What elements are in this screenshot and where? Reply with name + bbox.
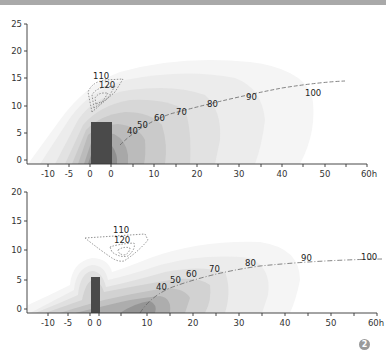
y-tick-label: 15	[11, 216, 22, 226]
trajectory-label: 50	[170, 275, 181, 285]
x-tick-label: -10	[41, 318, 55, 328]
x-tick-label: 40	[280, 318, 291, 328]
x-tick-label: 60h	[361, 169, 377, 179]
top-contour-field	[28, 60, 314, 164]
y-tick-label: 5	[17, 128, 22, 138]
x-tick-label: 50	[320, 169, 331, 179]
x-tick-label: 40	[277, 169, 288, 179]
x-tick-label: 30	[234, 318, 245, 328]
x-tick-label: 20	[188, 318, 199, 328]
trajectory-label: 60	[154, 113, 165, 123]
trajectory-label: 90	[246, 92, 257, 102]
x-tick-label: 50	[326, 318, 337, 328]
contour-label-120: 120	[114, 235, 130, 245]
x-tick-label: -10	[41, 169, 55, 179]
top-y-tick-labels: 25 20 15 10 5 0	[11, 19, 22, 165]
x-tick-label: 0	[108, 169, 113, 179]
y-tick-label: 0	[17, 155, 22, 165]
x-tick-label: 0	[87, 318, 92, 328]
y-tick-label: 20	[11, 187, 22, 197]
x-tick-label: 10	[142, 318, 153, 328]
bottom-x-tick-labels: -10 -5 0 0 10 20 30 40 50 60h	[41, 318, 384, 328]
y-tick-label: 5	[17, 275, 22, 285]
figure-canvas: 110 120 40 50 60 70 80 90 100	[0, 0, 386, 363]
x-tick-label: 30	[234, 169, 245, 179]
x-tick-label: -5	[65, 169, 73, 179]
bottom-y-tick-labels: 20 15 10 5 0	[11, 187, 22, 314]
x-tick-label: 10	[149, 169, 160, 179]
y-tick-label: 25	[11, 19, 22, 29]
contour-label-110: 110	[113, 225, 129, 235]
trajectory-label: 60	[186, 269, 197, 279]
trajectory-label: 70	[209, 264, 220, 274]
trajectory-label: 50	[137, 120, 148, 130]
x-tick-label: 0	[87, 169, 92, 179]
y-tick-label: 10	[11, 101, 22, 111]
y-tick-label: 0	[17, 304, 22, 314]
trajectory-label: 80	[245, 258, 256, 268]
x-tick-label: 60h	[368, 318, 384, 328]
figure-number-badge: 2	[359, 339, 370, 350]
bottom-chart: 110 120 40 50 60 70 80 90 100	[11, 187, 384, 328]
y-tick-label: 20	[11, 46, 22, 56]
x-tick-label: -5	[64, 318, 72, 328]
top-building	[91, 122, 112, 164]
bottom-contour-field	[28, 242, 300, 313]
top-x-tick-labels: -10 -5 0 0 10 20 30 40 50 60h	[41, 169, 377, 179]
trajectory-label: 90	[301, 253, 312, 263]
trajectory-label: 40	[156, 282, 167, 292]
x-tick-label: 0	[96, 318, 101, 328]
trajectory-label: 100	[361, 252, 377, 262]
y-tick-label: 10	[11, 245, 22, 255]
trajectory-label: 100	[305, 88, 321, 98]
top-chart: 110 120 40 50 60 70 80 90 100	[11, 19, 377, 179]
x-tick-label: 20	[192, 169, 203, 179]
trajectory-label: 80	[207, 99, 218, 109]
bottom-building	[91, 277, 100, 313]
trajectory-label: 70	[176, 107, 187, 117]
y-tick-label: 15	[11, 73, 22, 83]
contour-label-120: 120	[99, 80, 115, 90]
